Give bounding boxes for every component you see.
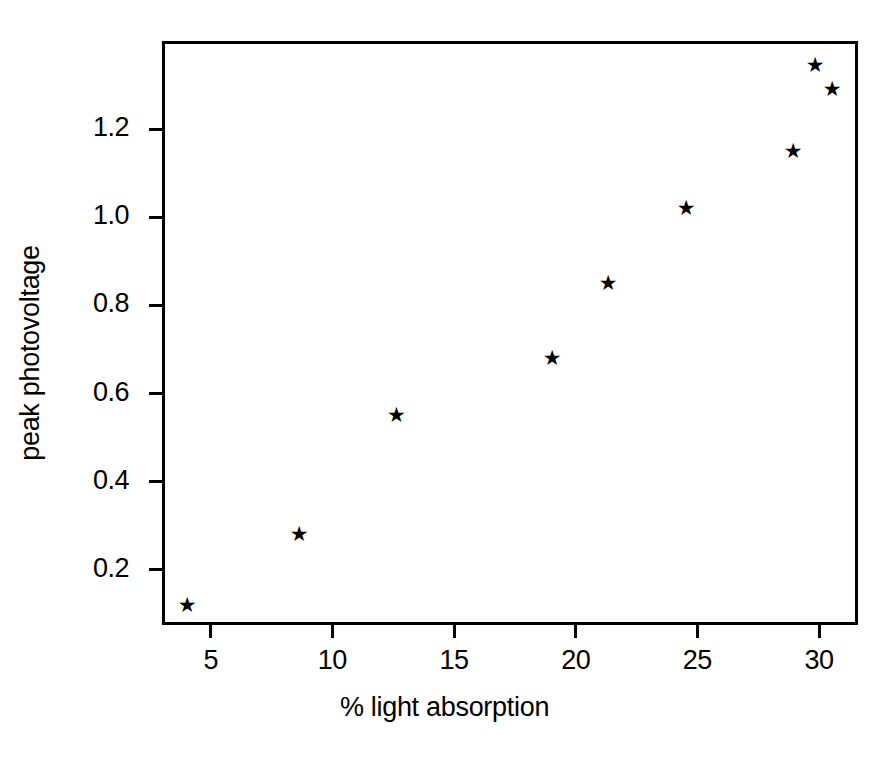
scatter-plot-figure: ★★★★★★★★★ 510152025300.20.40.60.81.01.2 …	[0, 0, 889, 767]
plot-data-area: ★★★★★★★★★	[162, 41, 858, 625]
x-axis-tick	[574, 625, 577, 638]
x-axis-tick	[209, 625, 212, 638]
y-axis-tick	[149, 304, 162, 307]
x-axis-tick	[453, 625, 456, 638]
x-axis-tick-label: 15	[414, 645, 494, 676]
data-point: ★	[178, 597, 195, 614]
x-axis-tick	[331, 625, 334, 638]
x-axis-label: % light absorption	[0, 692, 889, 723]
x-axis-tick-label: 5	[171, 645, 251, 676]
y-axis-tick	[149, 128, 162, 131]
data-point: ★	[290, 526, 307, 543]
data-point: ★	[387, 407, 404, 424]
data-point: ★	[677, 200, 694, 217]
y-axis-tick	[149, 568, 162, 571]
data-point: ★	[599, 275, 616, 292]
x-axis-tick	[696, 625, 699, 638]
x-axis-tick-label: 20	[536, 645, 616, 676]
x-axis-tick	[818, 625, 821, 638]
y-axis-label-wrapper: peak photovoltage	[10, 53, 50, 653]
data-point: ★	[823, 81, 840, 98]
data-point: ★	[806, 57, 823, 74]
y-axis-tick	[149, 480, 162, 483]
y-axis-tick	[149, 216, 162, 219]
y-axis-label: peak photovoltage	[15, 245, 45, 461]
x-axis-tick-label: 30	[779, 645, 859, 676]
x-axis-tick-label: 25	[657, 645, 737, 676]
data-point: ★	[543, 350, 560, 367]
y-axis-tick	[149, 392, 162, 395]
x-axis-tick-label: 10	[292, 645, 372, 676]
data-point: ★	[784, 143, 801, 160]
